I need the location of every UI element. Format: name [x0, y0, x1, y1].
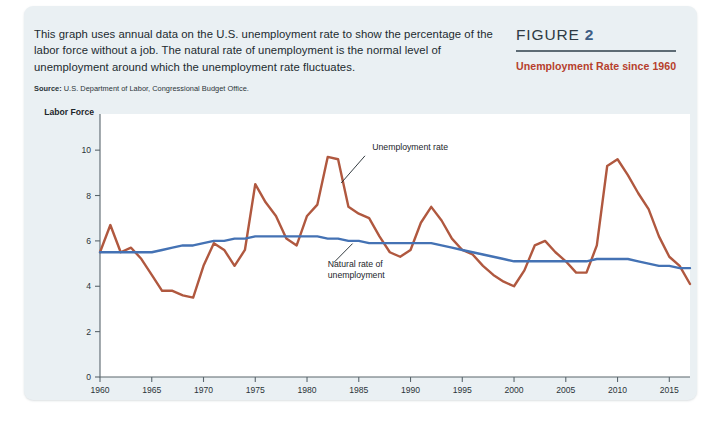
annotation-label: Unemployment rate	[372, 142, 448, 152]
figure-number: 2	[585, 26, 594, 43]
y-tick-label: 4	[86, 281, 91, 291]
x-tick-label: 2010	[608, 385, 627, 395]
y-tick-label: 8	[86, 191, 91, 201]
y-tick-label: 0	[86, 372, 91, 382]
x-tick-label: 1970	[194, 385, 213, 395]
y-tick-label: 2	[86, 327, 91, 337]
figure-title-line: FIGURE 2	[516, 26, 680, 50]
y-axis-ticks: 0246810	[81, 145, 100, 382]
y-tick-label: 6	[86, 236, 91, 246]
y-tick-label: 10	[81, 145, 91, 155]
x-tick-label: 1980	[297, 385, 316, 395]
x-tick-label: 1965	[142, 385, 161, 395]
intro-paragraph: This graph uses annual data on the U.S. …	[34, 26, 496, 75]
x-tick-label: 2005	[556, 385, 575, 395]
source-line: Source: U.S. Department of Labor, Congre…	[34, 84, 496, 94]
x-tick-label: 1995	[453, 385, 472, 395]
y-axis-title: Percent ofLabor Force	[44, 106, 94, 117]
unemployment-line-chart: 0246810 19601965197019751980198519901995…	[34, 106, 694, 398]
y-axis-title-line: Labor Force	[44, 107, 94, 117]
intro-block: This graph uses annual data on the U.S. …	[34, 26, 496, 94]
annotation-label: Natural rate of	[328, 259, 384, 269]
chart-container: 0246810 19601965197019751980198519901995…	[34, 106, 694, 398]
x-tick-label: 1960	[90, 385, 109, 395]
figure-label: FIGURE	[516, 26, 580, 43]
x-tick-label: 1990	[401, 385, 420, 395]
x-axis-ticks: 1960196519701975198019851990199520002005…	[90, 377, 679, 395]
x-tick-label: 2000	[504, 385, 523, 395]
source-text: U.S. Department of Labor, Congressional …	[64, 84, 249, 93]
figure-subtitle: Unemployment Rate since 1960	[516, 59, 680, 74]
x-tick-label: 1975	[246, 385, 265, 395]
figure-divider	[516, 50, 676, 52]
figure-header: FIGURE 2 Unemployment Rate since 1960	[516, 26, 680, 74]
annotation-label: unemployment	[328, 270, 386, 280]
figure-root: This graph uses annual data on the U.S. …	[0, 0, 721, 428]
x-tick-label: 2015	[660, 385, 679, 395]
x-tick-label: 1985	[349, 385, 368, 395]
source-label: Source:	[34, 84, 62, 93]
